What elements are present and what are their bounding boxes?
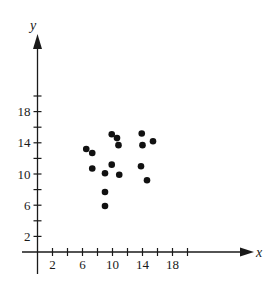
y-tick-label: 6 (24, 198, 31, 213)
data-point (138, 163, 145, 170)
y-axis-label: y (28, 18, 37, 33)
x-tick-label: 2 (49, 257, 56, 272)
data-point (115, 142, 122, 149)
axes (22, 34, 254, 274)
data-point (138, 130, 145, 137)
data-point (102, 170, 109, 177)
y-tick-label: 10 (18, 167, 31, 182)
data-point (108, 161, 115, 168)
data-point (83, 146, 90, 153)
data-points (83, 130, 156, 209)
data-point (116, 171, 123, 178)
data-point (114, 135, 121, 142)
data-point (102, 203, 109, 210)
x-tick-label: 14 (136, 257, 150, 272)
data-point (144, 177, 151, 184)
x-tick-label: 6 (79, 257, 86, 272)
data-point (150, 138, 157, 145)
data-point (102, 189, 109, 196)
x-axis-label: x (255, 245, 263, 260)
y-tick-label: 18 (18, 104, 31, 119)
x-axis-arrow-icon (240, 248, 254, 257)
y-tick-label: 2 (24, 229, 31, 244)
data-point (108, 131, 115, 138)
y-tick-label: 14 (18, 135, 32, 150)
x-tick-label: 10 (106, 257, 119, 272)
data-point (89, 150, 96, 157)
data-point (139, 142, 146, 149)
y-axis-arrow-icon (33, 34, 42, 49)
scatter-chart: 26101418 26101418 x y (0, 0, 276, 295)
x-tick-label: 18 (166, 257, 179, 272)
data-point (89, 165, 96, 172)
